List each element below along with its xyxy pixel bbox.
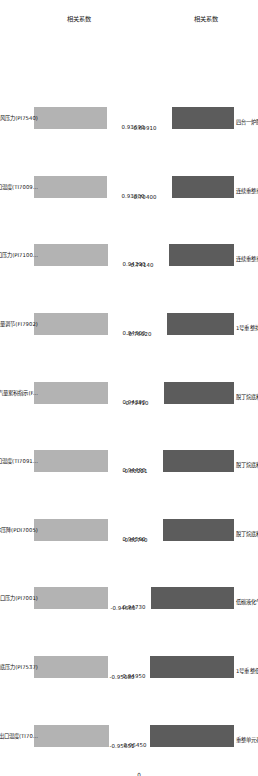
category-label: C701离心机组汽轮机入口温度(TI7091... [0, 457, 38, 465]
bar[interactable] [34, 587, 108, 609]
bar-slot: -0.69910四台一炉膛压力(PI7035B) [146, 84, 234, 153]
bar-slot: -0.95651重整单元存差 [146, 701, 234, 770]
bar-slot: 0.94490C701离心机组汽轮机入口温度(TI7091... [34, 427, 112, 496]
bar[interactable] [34, 382, 108, 404]
category-label: 阿德斗外+阿德底压力(PI7537) [0, 663, 38, 671]
category-label: R704第四反应器入口压力(PI7100... [0, 251, 38, 259]
category-label: E701进料蒸汽(体压降(PDI7005) [0, 526, 38, 534]
bar-slot: -0.760201号重整排火炬干气 [146, 290, 234, 359]
bar[interactable] [164, 382, 234, 404]
bar-slot: 0.94290R704第四反应器入口压力(PI7100... [34, 221, 112, 290]
bar-slot: 0.93690V757一次提升风压力(PI7540) [34, 84, 112, 153]
bar[interactable] [169, 244, 234, 266]
bar[interactable] [34, 519, 108, 541]
bar-slot: -0.950801号重整低碳液化气 [146, 633, 234, 702]
bar[interactable] [167, 313, 234, 335]
bar-slot: -0.70400连续重整重整进料C7烷烃质量分数 [146, 153, 234, 222]
bar-slot: 0.94950阿德斗外+阿德底压力(PI7537) [34, 633, 112, 702]
bar-value-label: 0.93690 [122, 124, 145, 130]
bar-value-label: 0.94300 [122, 330, 145, 336]
bar-value-label: 0.96450 [124, 741, 147, 747]
bar[interactable] [34, 450, 108, 472]
bar-slot: -0.94660低碳液化气收率 [146, 564, 234, 633]
category-label: 中压给水流量调节(FI7902) [0, 320, 38, 328]
y-axis-tick-label: 0 [137, 772, 141, 776]
bar-value-label: 0.94950 [123, 673, 146, 679]
bar-slot: 0.94300中压给水流量调节(FI7902) [34, 290, 112, 359]
negative-correlation-chart: 相关系数 -0.69910四台一炉膛压力(PI7035B)-0.70400连续重… [129, 0, 258, 776]
bar[interactable] [150, 725, 234, 747]
bar-slot: -0.80740脱丁烷底料C7烷烃质量分数 [146, 496, 234, 565]
bar[interactable] [172, 107, 234, 129]
y-axis-label-negative: 相关系数 [194, 14, 219, 23]
bar[interactable] [34, 107, 107, 129]
bar[interactable] [34, 725, 109, 747]
bar[interactable] [34, 313, 108, 335]
bar[interactable] [151, 587, 234, 609]
category-label: V757一次提升风压力(PI7540) [0, 114, 38, 122]
bar-slot: 0.94590E701进料蒸汽(体压降(PDI7005) [34, 496, 112, 565]
bar-slot: 0.943900.3MPa蒸汽炉自产蒸汽量累积指示(F... [34, 358, 112, 427]
bar-value-label: 0.94490 [122, 467, 145, 473]
category-label: 0.3MPa蒸汽炉自产蒸汽量累积指示(F... [0, 389, 38, 397]
y-axis-label-positive: 相关系数 [67, 14, 92, 23]
positive-correlation-chart: 相关系数 0.93690V757一次提升风压力(PI7540)0.93800R7… [0, 0, 129, 776]
category-label: 换热器E701反应产物出口温度(TI70... [0, 732, 38, 740]
bar-value-label: 0.94590 [122, 535, 145, 541]
plot-area-negative: -0.69910四台一炉膛压力(PI7035B)-0.70400连续重整重整进料… [129, 84, 258, 770]
bar[interactable] [150, 656, 234, 678]
rotated-chart-page: 相关系数 -0.69910四台一炉膛压力(PI7035B)-0.70400连续重… [0, 0, 258, 776]
bar[interactable] [34, 244, 108, 266]
bar[interactable] [34, 656, 108, 678]
bar-group-positive: 0.93690V757一次提升风压力(PI7540)0.93800R701第一反… [34, 84, 112, 770]
category-label: R701第一反应器出口温度(TI7009... [0, 183, 38, 191]
bar[interactable] [163, 519, 234, 541]
bar-slot: -0.80221脱丁烷底料C6烷烃质量分数 [146, 427, 234, 496]
bar-value-label: 0.94290 [122, 261, 145, 267]
plot-area-positive: 0.93690V757一次提升风压力(PI7540)0.93800R701第一反… [0, 84, 129, 770]
bar-slot: 0.93800R701第一反应器出口温度(TI7009... [34, 153, 112, 222]
bar-slot: 0.94730罐E701入口压力(PI7001) [34, 564, 112, 633]
bar-group-negative: -0.69910四台一炉膛压力(PI7035B)-0.70400连续重整重整进料… [146, 84, 234, 770]
bar[interactable] [34, 176, 107, 198]
bar-value-label: 0.93800 [122, 192, 145, 198]
bar[interactable] [163, 450, 234, 472]
bar-slot: -0.79410脱丁烷底料C5烷烃质量分数 [146, 358, 234, 427]
bar-slot: -0.74140连续重整重整进料C6烷烃质量分数 [146, 221, 234, 290]
bar[interactable] [172, 176, 234, 198]
bar-value-label: 0.94730 [122, 604, 145, 610]
bar-value-label: 0.94390 [122, 398, 145, 404]
bar-slot: 0.96450换热器E701反应产物出口温度(TI70... [34, 701, 112, 770]
category-label: 罐E701入口压力(PI7001) [0, 594, 38, 602]
